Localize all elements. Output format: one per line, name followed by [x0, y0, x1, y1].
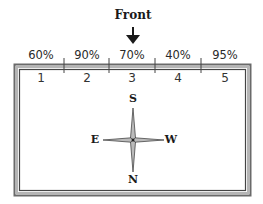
zone-3-number: 3 — [109, 71, 155, 85]
compass-east-label: E — [88, 133, 102, 146]
zone-2-percent: 90% — [64, 48, 110, 62]
diagram: Front 60% 90% 70% 40% 95% 1 2 3 4 5 S N … — [0, 0, 263, 204]
front-label: Front — [104, 8, 162, 22]
zone-3-percent: 70% — [109, 48, 155, 62]
zone-1-number: 1 — [18, 71, 64, 85]
zone-5-percent: 95% — [202, 48, 248, 62]
zone-2-number: 2 — [64, 71, 110, 85]
zone-4-number: 4 — [155, 71, 201, 85]
compass-rose-icon — [103, 108, 164, 172]
zone-5-number: 5 — [202, 71, 248, 85]
arrow-down-icon — [126, 27, 140, 44]
compass-west-label: W — [164, 133, 178, 146]
zone-1-percent: 60% — [18, 48, 64, 62]
compass-north-label: N — [126, 173, 140, 186]
compass-south-label: S — [126, 92, 140, 105]
zone-4-percent: 40% — [155, 48, 201, 62]
